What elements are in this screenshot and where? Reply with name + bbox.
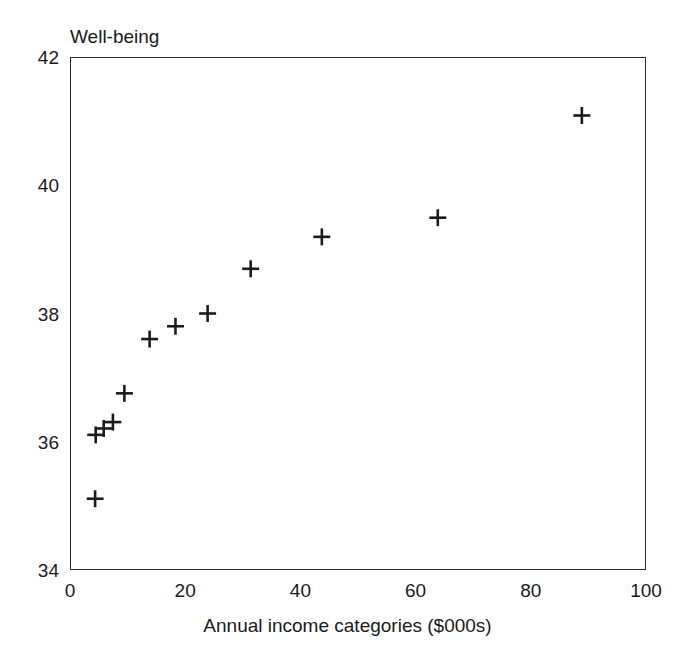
x-tick-label: 20	[175, 581, 196, 600]
y-axis-tick-labels: 3436384042	[0, 57, 59, 570]
y-tick-label: 38	[38, 304, 59, 323]
y-tick-label: 40	[38, 176, 59, 195]
x-tick-label: 80	[520, 581, 541, 600]
x-tick-label: 100	[630, 581, 662, 600]
data-point-marker	[573, 107, 590, 124]
data-points-layer	[71, 58, 645, 569]
data-point-marker	[429, 209, 446, 226]
data-point-marker	[167, 318, 184, 335]
scatter-chart-figure: Well-being 3436384042 020406080100 Annua…	[0, 0, 695, 667]
x-tick-label: 40	[290, 581, 311, 600]
y-tick-label: 34	[38, 561, 59, 580]
x-axis-title: Annual income categories ($000s)	[0, 615, 695, 637]
data-point-marker	[141, 331, 158, 348]
x-axis-tick-labels: 020406080100	[70, 581, 646, 605]
data-point-marker	[116, 385, 133, 402]
data-point-marker	[242, 260, 259, 277]
x-tick-label: 0	[65, 581, 76, 600]
y-tick-label: 36	[38, 432, 59, 451]
data-point-marker	[87, 490, 104, 507]
y-tick-label: 42	[38, 48, 59, 67]
data-point-marker	[199, 305, 216, 322]
y-axis-title: Well-being	[70, 26, 159, 48]
data-point-marker	[313, 228, 330, 245]
x-tick-label: 60	[405, 581, 426, 600]
plot-area	[70, 57, 646, 570]
